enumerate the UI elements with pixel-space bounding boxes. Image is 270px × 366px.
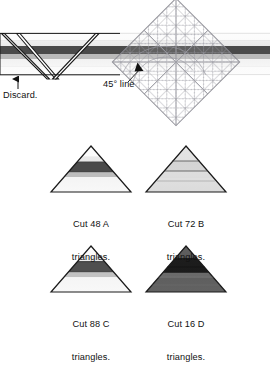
- triangle-c-caption: Cut 88 C triangles.: [53, 297, 129, 366]
- triangle-b-caption-line1: Cut 72 B: [148, 219, 224, 230]
- triangle-b-shape[interactable]: [146, 146, 226, 192]
- triangle-b-caption-line2: triangles.: [148, 252, 224, 263]
- angle-line-label: 45° line: [103, 79, 135, 90]
- ruler-overlay[interactable]: [112, 0, 241, 127]
- triangle-d-caption: Cut 16 D triangles.: [148, 297, 224, 366]
- triangle-b-caption: Cut 72 B triangles.: [148, 197, 224, 285]
- triangle-a-caption: Cut 48 A triangles.: [53, 197, 129, 285]
- triangle-a-caption-line1: Cut 48 A: [53, 219, 129, 230]
- triangle-a-caption-line2: triangles.: [53, 252, 129, 263]
- triangle-a-shape[interactable]: [51, 146, 131, 192]
- triangle-d-caption-line1: Cut 16 D: [148, 319, 224, 330]
- triangle-c-caption-line2: triangles.: [53, 352, 129, 363]
- triangle-d-caption-line2: triangles.: [148, 352, 224, 363]
- discard-label: Discard.: [3, 90, 38, 101]
- triangle-c-caption-line1: Cut 88 C: [53, 319, 129, 330]
